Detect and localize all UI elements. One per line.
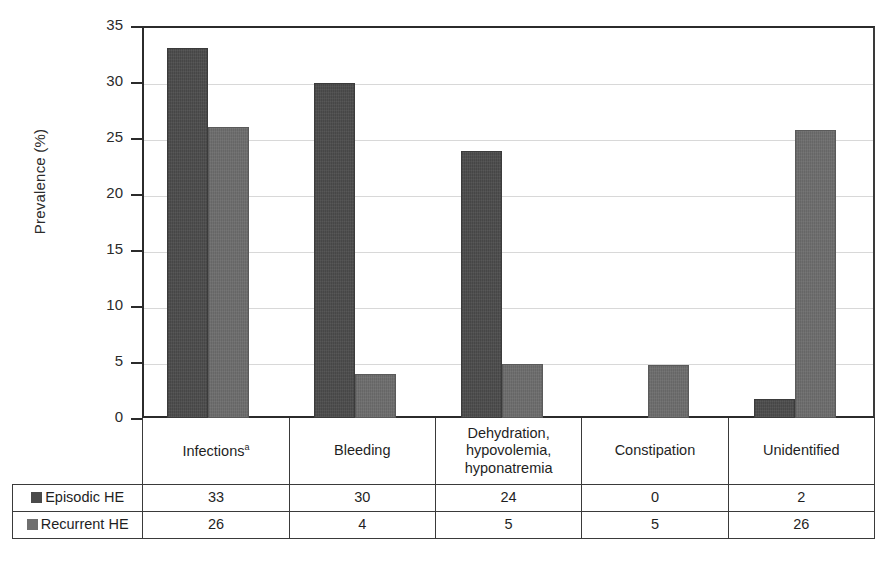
y-axis-tick-mark xyxy=(131,82,142,84)
bar-recurrent-he-infections xyxy=(208,127,249,418)
y-axis-tick-label: 20 xyxy=(106,184,123,201)
y-axis-tick-mark xyxy=(131,26,142,28)
table-cell-value: 26 xyxy=(728,512,874,539)
bar-episodic-he-infections xyxy=(167,48,208,418)
y-axis-tick-mark xyxy=(131,250,142,252)
bar-episodic-he-bleeding xyxy=(314,83,355,418)
table-cell-value: 4 xyxy=(289,512,435,539)
y-axis-tick-mark xyxy=(131,362,142,364)
bars-layer xyxy=(142,26,875,418)
legend-swatch-icon xyxy=(31,492,42,503)
y-axis-tick-label: 10 xyxy=(106,296,123,313)
legend-item-recurrent-he: Recurrent HE xyxy=(13,512,143,539)
bar-episodic-he-dehydration xyxy=(461,151,502,418)
y-axis-tick-label: 5 xyxy=(115,352,123,369)
table-cell-value: 5 xyxy=(582,512,728,539)
table-header-cell: Infectionsa xyxy=(143,418,289,485)
table-cell-value: 30 xyxy=(289,485,435,512)
chart-plot-area: Prevalence (%) 05101520253035 xyxy=(0,0,891,420)
table-cell-value: 0 xyxy=(582,485,728,512)
legend-item-episodic-he: Episodic HE xyxy=(13,485,143,512)
table-cell-value: 33 xyxy=(143,485,289,512)
y-axis-tick-mark xyxy=(131,306,142,308)
legend-label: Recurrent HE xyxy=(41,516,129,532)
legend-label: Episodic HE xyxy=(45,489,124,505)
data-table-body: InfectionsaBleedingDehydration, hypovole… xyxy=(13,418,875,539)
data-table: InfectionsaBleedingDehydration, hypovole… xyxy=(12,418,875,539)
table-header-cell: Constipation xyxy=(582,418,728,485)
y-axis-tick-label: 15 xyxy=(106,240,123,257)
bar-recurrent-he-unidentified xyxy=(795,130,836,418)
table-header-cell: Bleeding xyxy=(289,418,435,485)
bar-recurrent-he-dehydration xyxy=(502,364,543,418)
bar-episodic-he-unidentified xyxy=(754,399,795,418)
table-cell-value: 26 xyxy=(143,512,289,539)
bar-recurrent-he-bleeding xyxy=(355,374,396,418)
footnote-marker: a xyxy=(244,442,249,452)
bar-recurrent-he-constipation xyxy=(648,365,689,418)
table-row: Recurrent HE2645526 xyxy=(13,512,875,539)
table-header-blank xyxy=(13,418,143,485)
y-axis-tick-mark xyxy=(131,194,142,196)
legend-swatch-icon xyxy=(27,519,38,530)
y-axis-tick-label: 30 xyxy=(106,72,123,89)
table-cell-value: 2 xyxy=(728,485,874,512)
y-axis-label: Prevalence (%) xyxy=(31,57,48,307)
y-axis-tick-label: 35 xyxy=(106,16,123,33)
figure-root: Prevalence (%) 05101520253035 Infections… xyxy=(0,0,891,561)
table-row: Episodic HE33302402 xyxy=(13,485,875,512)
table-header-cell: Dehydration, hypovolemia, hyponatremia xyxy=(435,418,581,485)
table-header-cell: Unidentified xyxy=(728,418,874,485)
table-header-row: InfectionsaBleedingDehydration, hypovole… xyxy=(13,418,875,485)
table-cell-value: 24 xyxy=(435,485,581,512)
table-cell-value: 5 xyxy=(435,512,581,539)
y-axis-tick-label: 25 xyxy=(106,128,123,145)
y-axis-tick-mark xyxy=(131,138,142,140)
